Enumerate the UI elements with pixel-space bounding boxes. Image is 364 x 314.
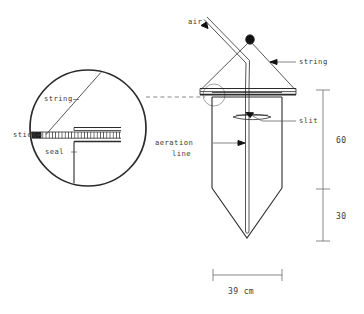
detail-string-label: string [44,94,73,103]
aeration-arrowhead-icon [238,141,245,146]
detail-callout-group: string stick seal [13,70,225,190]
upper-height-value: 60 [336,136,346,145]
string-leg-left [201,42,249,90]
lower-height-value: 30 [336,212,346,221]
detail-stick-label: stick [13,130,37,139]
bag-bottom-point [212,188,282,238]
aeration-tube-upper-inner [207,17,250,61]
string-leg-right [251,42,295,90]
aeration-tube-tip [246,231,250,233]
aeration-label-line2: line [172,149,191,158]
detail-seal-label: seal [45,147,64,156]
aeration-tube-elbow-right [249,61,250,89]
technical-diagram-svg: string stick seal [0,0,364,314]
aeration-label-line1: aeration [155,138,193,147]
annotations-group: air string slit aeration line [155,17,328,158]
apparatus-group [200,17,296,238]
aeration-tube-upper-outer [204,20,246,64]
string-label: string [299,57,328,66]
diagram-root: string stick seal [0,0,364,314]
width-value: 39 cm [228,287,254,296]
slit-label: slit [299,116,318,125]
aeration-tube-elbow-left [246,63,247,88]
string-knot-icon [246,35,254,44]
air-label: air [188,17,203,26]
